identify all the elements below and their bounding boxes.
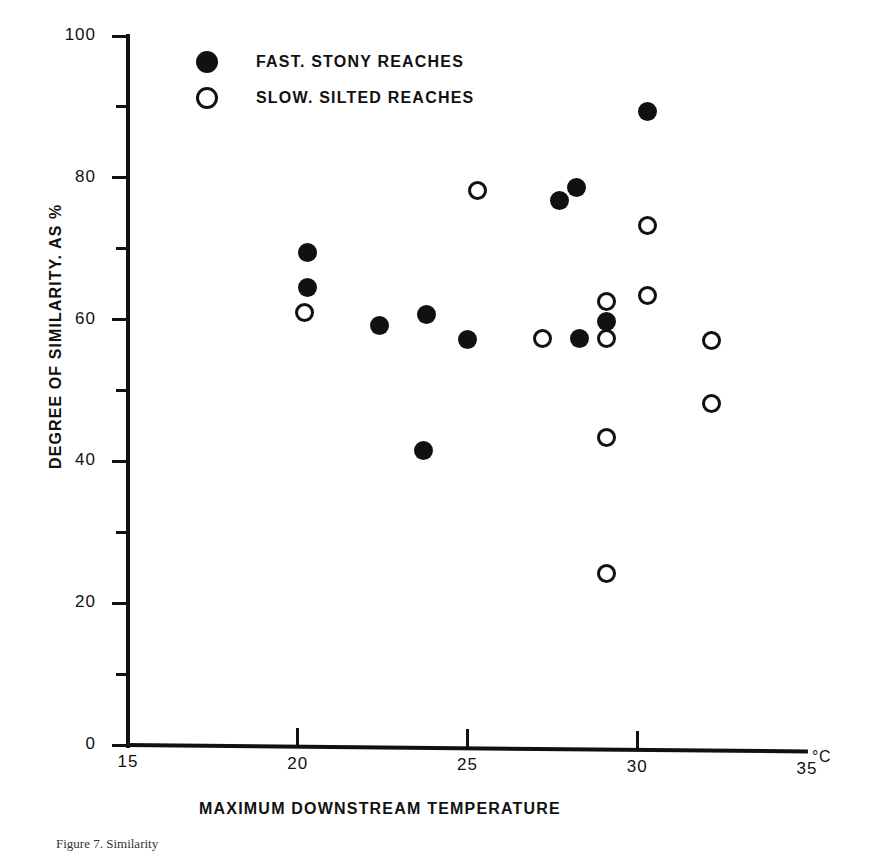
open-circle-icon — [196, 87, 218, 109]
data-point-slow-silted — [533, 329, 552, 348]
y-tick-label: 100 — [0, 25, 96, 45]
y-tick-minor — [116, 673, 129, 676]
data-point-fast-stony — [570, 329, 589, 348]
y-tick-label: 80 — [0, 167, 96, 187]
y-tick-minor — [116, 247, 129, 250]
x-tick-label: 30 — [607, 757, 667, 777]
x-axis-title: MAXIMUM DOWNSTREAM TEMPERATURE — [0, 800, 760, 818]
y-tick-major — [112, 744, 129, 747]
data-point-fast-stony — [417, 305, 436, 324]
y-tick-label: 20 — [0, 592, 96, 612]
legend-label: SLOW. SILTED REACHES — [256, 89, 474, 107]
scatter-plot-figure: 020406080100 1520253035 DEGREE OF SIMILA… — [0, 0, 883, 867]
x-tick — [636, 731, 639, 749]
y-tick-major — [112, 602, 129, 605]
y-tick-major — [112, 318, 129, 321]
data-point-slow-silted — [468, 181, 487, 200]
x-axis-unit-label: °C — [812, 748, 831, 766]
x-tick-label: 20 — [268, 754, 328, 774]
data-point-slow-silted — [597, 564, 616, 583]
data-point-fast-stony — [414, 441, 433, 460]
legend-label: FAST. STONY REACHES — [256, 53, 464, 71]
data-point-slow-silted — [702, 394, 721, 413]
legend-item-slow-silted: SLOW. SILTED REACHES — [196, 80, 474, 116]
data-point-fast-stony — [298, 278, 317, 297]
filled-circle-icon — [196, 51, 218, 73]
y-axis-title: DEGREE OF SIMILARITY. AS % — [47, 209, 65, 469]
data-point-slow-silted — [638, 216, 657, 235]
legend-item-fast-stony: FAST. STONY REACHES — [196, 44, 474, 80]
data-point-fast-stony — [638, 102, 657, 121]
y-tick-minor — [116, 105, 129, 108]
data-point-slow-silted — [597, 428, 616, 447]
y-tick-major — [112, 35, 129, 38]
y-tick-minor — [116, 531, 129, 534]
y-tick-major — [112, 460, 129, 463]
data-point-fast-stony — [458, 330, 477, 349]
x-tick — [466, 729, 469, 747]
data-point-slow-silted — [295, 303, 314, 322]
data-point-slow-silted — [597, 292, 616, 311]
y-tick-minor — [116, 389, 129, 392]
x-tick-label: 15 — [98, 752, 158, 772]
data-point-fast-stony — [550, 191, 569, 210]
y-tick-major — [112, 176, 129, 179]
figure-caption: Figure 7. Similarity — [56, 836, 158, 852]
chart-legend: FAST. STONY REACHES SLOW. SILTED REACHES — [196, 44, 474, 116]
x-tick — [296, 728, 299, 746]
data-point-slow-silted — [638, 286, 657, 305]
data-point-fast-stony — [567, 178, 586, 197]
data-point-fast-stony — [298, 243, 317, 262]
data-point-fast-stony — [370, 316, 389, 335]
x-tick-label: 25 — [438, 755, 498, 775]
data-point-fast-stony — [597, 312, 616, 331]
data-point-slow-silted — [702, 331, 721, 350]
data-point-slow-silted — [597, 329, 616, 348]
y-tick-label: 0 — [0, 734, 96, 754]
